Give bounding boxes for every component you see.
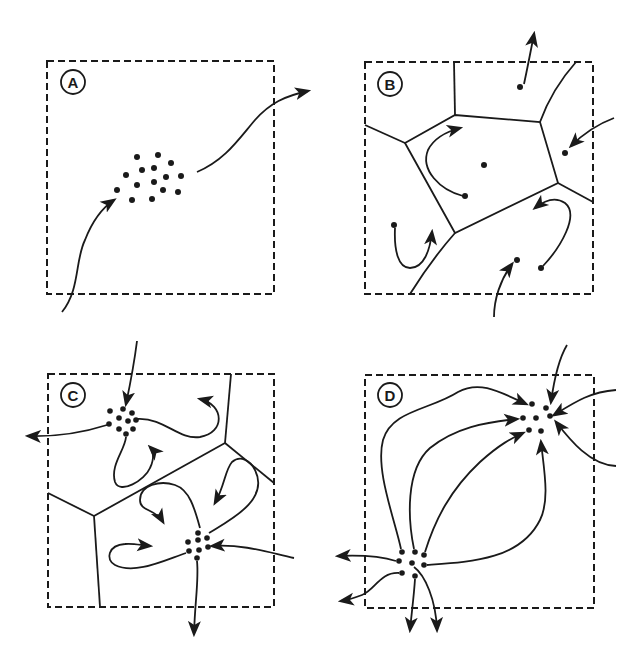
panel-a: A (47, 61, 308, 312)
panel-a-cell-cluster (114, 152, 184, 203)
panel-c: C (28, 341, 294, 634)
panel-d-arrow-right-in-lower (556, 422, 616, 466)
figure-canvas: A B (0, 0, 641, 659)
panel-c-arrow-left-out (28, 425, 107, 436)
panel-d-arrow-middle-arc (410, 419, 517, 549)
panel-c-arrow-bottom-out (194, 561, 198, 634)
panel-c-arrow-upper-down-loop (114, 437, 153, 487)
panel-b: B (365, 34, 614, 317)
panel-a-label-text: A (68, 74, 79, 91)
panel-c-arrow-top-in (126, 341, 137, 404)
panel-d-arrow-bottom-out-left (410, 579, 415, 630)
panel-d-label: D (378, 383, 402, 407)
panel-a-arrow-in (62, 200, 114, 312)
panel-d-label-text: D (385, 387, 396, 404)
panel-c-frame (48, 374, 274, 607)
panel-d-arrow-left-out-lower (341, 573, 399, 601)
panel-c-arrow-lower-loop-b (209, 459, 258, 533)
panel-c-arrow-upper-loop (138, 399, 219, 437)
panel-b-label-text: B (385, 76, 396, 93)
panel-c-label-text: C (68, 387, 79, 404)
panel-a-label: A (61, 70, 85, 94)
panel-c-cluster-upper (106, 406, 139, 437)
panel-d-arrow-diagonal (425, 433, 523, 552)
panel-b-arrow-up (524, 34, 534, 84)
panel-c-arrow-lower-loop-a (140, 483, 200, 528)
panel-a-frame (47, 61, 274, 294)
panel-d-arrow-top-in (551, 345, 567, 402)
panel-d-arrow-right-in-upper (554, 390, 616, 415)
panel-c-label: C (61, 383, 85, 407)
panel-b-arrow-bottom-in (494, 264, 512, 317)
panel-c-arrow-lower-left-loop (109, 544, 186, 569)
panel-b-arrow-lower-right-loop (535, 199, 570, 266)
panel-c-arrow-right-in (212, 546, 294, 558)
panel-d: D (338, 345, 616, 630)
panel-d-cluster-lower (396, 549, 427, 579)
panel-b-cells (391, 84, 568, 271)
panel-d-cluster-upper (520, 401, 553, 434)
panel-d-arrow-outer-arc (381, 387, 526, 549)
panel-c-domain-walls (48, 374, 274, 607)
panel-d-arrow-left-out-upper (338, 556, 396, 561)
panel-b-arrow-left-loop (395, 228, 432, 268)
panel-b-label: B (378, 72, 402, 96)
panel-d-arrow-lower-arc (427, 442, 546, 565)
panel-c-cluster-lower (185, 530, 211, 561)
panel-a-arrow-out (197, 91, 308, 172)
panel-b-arrow-center-loop (426, 128, 463, 196)
